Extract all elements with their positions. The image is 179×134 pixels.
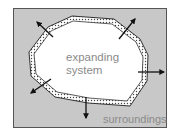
surroundings-label: surroundings	[103, 113, 167, 125]
expanding-system-diagram: expanding system surroundings	[0, 0, 179, 134]
system-label-line1: expanding	[66, 51, 119, 63]
system-label-line2: system	[66, 64, 102, 76]
